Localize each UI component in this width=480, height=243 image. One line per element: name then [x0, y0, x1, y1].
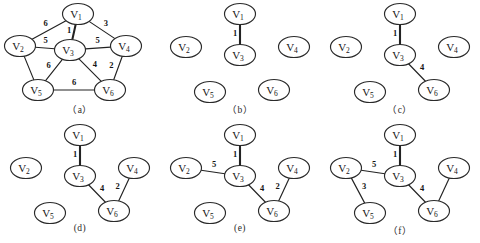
edge-weight-v4-v6: 2 — [109, 60, 113, 70]
graph-node-v6: V6 — [259, 80, 290, 101]
edge-v4-v6 — [439, 178, 450, 201]
graph-node-v6: V6 — [419, 80, 450, 101]
panel-caption-d: (d) — [0, 223, 160, 233]
graph-panel-e: 1542V1V2V3V4V5V6(e) — [160, 121, 320, 242]
node-subscript: 6 — [274, 209, 278, 218]
graph-node-v3: V3 — [55, 40, 86, 61]
node-subscript: 5 — [370, 90, 374, 99]
node-subscript: 2 — [20, 44, 24, 53]
mst-figure: 613556426V1V2V3V4V5V6（a）1V1V2V3V4V5V6（b）… — [0, 0, 480, 243]
edge-v4-v6 — [114, 56, 123, 80]
node-subscript: 5 — [210, 211, 214, 220]
node-letter: V — [106, 204, 114, 216]
node-letter: V — [70, 7, 78, 19]
node-letter: V — [446, 40, 454, 52]
edge-v4-v6 — [279, 178, 290, 201]
edge-weight-v3-v6: 4 — [260, 183, 265, 193]
graph-node-v2: V2 — [331, 158, 362, 179]
node-subscript: 3 — [240, 174, 244, 183]
node-letter: V — [42, 206, 50, 218]
node-letter: V — [286, 161, 294, 173]
node-subscript: 6 — [274, 88, 278, 97]
node-letter: V — [232, 169, 240, 181]
edge-v2-v5 — [24, 56, 34, 80]
panel-caption-a: （a） — [0, 102, 160, 116]
edge-weight-v1-v3: 1 — [73, 149, 77, 159]
node-subscript: 5 — [210, 90, 214, 99]
edge-weight-v5-v6: 6 — [72, 77, 76, 87]
graph-node-v2: V2 — [331, 37, 362, 58]
edge-weight-v4-v6: 2 — [276, 181, 280, 191]
edge-v4-v6 — [119, 178, 130, 201]
node-letter: V — [232, 7, 240, 19]
node-subscript: 1 — [78, 12, 82, 21]
node-letter: V — [72, 169, 80, 181]
graph-node-v1: V1 — [63, 4, 94, 25]
panel-caption-e: (e) — [160, 223, 320, 233]
node-subscript: 3 — [70, 48, 74, 57]
node-letter: V — [446, 161, 454, 173]
graph-node-v4: V4 — [111, 36, 142, 57]
graph-node-v6: V6 — [419, 201, 450, 222]
edge-v1-v2 — [32, 21, 66, 40]
panel-caption-c: （c） — [320, 102, 480, 116]
edge-v2-v3 — [35, 47, 54, 49]
node-subscript: 2 — [186, 45, 190, 54]
node-letter: V — [232, 128, 240, 140]
node-subscript: 6 — [434, 88, 438, 97]
graph-node-v2: V2 — [171, 158, 202, 179]
edge-weight-v2-v3: 5 — [43, 35, 47, 45]
node-letter: V — [12, 39, 20, 51]
panel-caption-b: （b） — [160, 102, 320, 116]
node-subscript: 2 — [346, 45, 350, 54]
graph-panel-c: 14V1V2V3V4V5V6（c） — [320, 0, 480, 121]
graph-node-v5: V5 — [23, 80, 54, 101]
node-subscript: 4 — [126, 44, 130, 53]
graph-node-v4: V4 — [439, 158, 470, 179]
edge-v2-v3 — [201, 170, 225, 174]
node-subscript: 6 — [434, 209, 438, 218]
node-subscript: 4 — [454, 45, 458, 54]
edge-weight-v2-v5: 3 — [362, 181, 366, 191]
edge-weight-v3-v6: 4 — [420, 62, 425, 72]
node-subscript: 4 — [134, 166, 138, 175]
graph-node-v6: V6 — [259, 201, 290, 222]
node-subscript: 2 — [26, 166, 30, 175]
node-subscript: 4 — [294, 45, 298, 54]
node-letter: V — [426, 83, 434, 95]
node-letter: V — [72, 128, 80, 140]
node-subscript: 1 — [240, 12, 244, 21]
edge-weight-v3-v6: 4 — [93, 59, 98, 69]
graph-node-v2: V2 — [5, 36, 36, 57]
edge-weight-v3-v6: 4 — [100, 183, 105, 193]
node-letter: V — [202, 206, 210, 218]
node-subscript: 1 — [400, 12, 404, 21]
graph-node-v6: V6 — [99, 201, 130, 222]
node-subscript: 4 — [454, 166, 458, 175]
node-subscript: 1 — [400, 133, 404, 142]
node-letter: V — [392, 128, 400, 140]
node-letter: V — [338, 161, 346, 173]
edge-weight-v1-v3: 1 — [233, 28, 237, 38]
node-letter: V — [286, 40, 294, 52]
graph-panel-b: 1V1V2V3V4V5V6（b） — [160, 0, 320, 121]
node-letter: V — [266, 204, 274, 216]
node-subscript: 5 — [50, 211, 54, 220]
node-letter: V — [118, 39, 126, 51]
node-subscript: 3 — [80, 174, 84, 183]
edge-weight-v3-v6: 4 — [420, 183, 425, 193]
node-letter: V — [338, 40, 346, 52]
node-letter: V — [266, 83, 274, 95]
edge-v3-v4 — [85, 47, 110, 49]
edge-v1-v4 — [89, 21, 115, 38]
graph-node-v3: V3 — [385, 45, 416, 66]
node-subscript: 6 — [114, 209, 118, 218]
node-letter: V — [392, 7, 400, 19]
node-subscript: 3 — [240, 53, 244, 62]
graph-node-v4: V4 — [439, 37, 470, 58]
graph-node-v6: V6 — [95, 80, 126, 101]
node-letter: V — [30, 83, 38, 95]
node-subscript: 6 — [110, 88, 114, 97]
edge-weight-v1-v3: 1 — [67, 25, 71, 35]
graph-panel-f: 1534V1V2V3V4V5V6（f） — [320, 121, 480, 242]
